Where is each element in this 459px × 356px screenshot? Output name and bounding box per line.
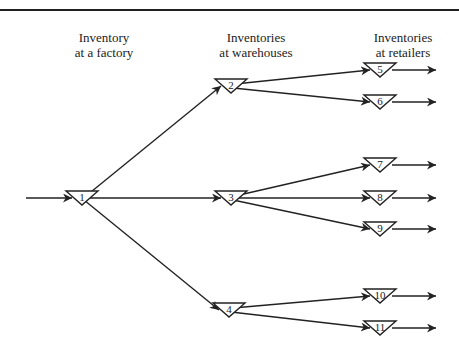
node-number: 6 <box>377 95 383 107</box>
supply-chain-diagram: 1234567891011 <box>0 0 459 356</box>
inventory-node-2: 2 <box>215 79 247 93</box>
edge-arrow <box>233 296 370 308</box>
node-number: 3 <box>228 191 234 203</box>
node-number: 8 <box>377 191 383 203</box>
edge-arrow <box>86 86 221 196</box>
inventory-node-4: 4 <box>213 303 245 317</box>
edge-arrow <box>233 88 370 102</box>
node-number: 2 <box>228 79 234 91</box>
node-number: 4 <box>226 303 232 315</box>
node-number: 5 <box>377 63 383 75</box>
edge-arrow <box>231 312 370 328</box>
edge-arrow <box>233 200 370 229</box>
node-number: 1 <box>79 191 85 203</box>
edge-arrow <box>235 70 370 84</box>
nodes: 1234567891011 <box>66 63 396 335</box>
edge-arrow <box>235 165 370 196</box>
node-number: 11 <box>375 321 386 333</box>
edge-arrow <box>84 200 219 310</box>
node-number: 10 <box>375 289 387 301</box>
node-number: 9 <box>377 222 383 234</box>
node-number: 7 <box>377 158 383 170</box>
